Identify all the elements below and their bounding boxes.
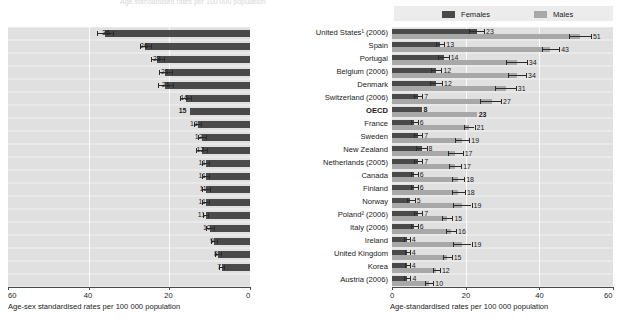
left-axis-tick-label: 60	[8, 291, 16, 300]
error-bar-cap	[446, 229, 447, 234]
bar-females	[392, 68, 436, 73]
error-bar-cap	[453, 203, 454, 208]
left-axis-tick	[8, 287, 9, 290]
value-label-total: 21	[157, 68, 169, 75]
error-bar-cap	[441, 68, 442, 73]
error-bar-line	[436, 44, 444, 45]
error-bar-cap	[191, 96, 192, 101]
value-label-males: 43	[561, 46, 569, 53]
error-bar-cap	[224, 265, 225, 270]
right-axis-tick	[613, 287, 614, 290]
error-bar-cap	[414, 211, 415, 216]
error-bar-cap	[422, 211, 423, 216]
error-bar-cap	[209, 200, 210, 205]
value-label-females: 4	[412, 262, 416, 269]
legend-swatch-males-icon	[534, 11, 547, 18]
gridline	[169, 27, 170, 287]
gridline	[89, 27, 90, 287]
error-bar-cap	[526, 73, 527, 78]
error-bar-cap	[407, 198, 408, 203]
error-bar-cap	[433, 268, 434, 273]
bar-total	[202, 147, 250, 154]
bar-males	[392, 47, 550, 52]
error-bar-cap	[455, 138, 456, 143]
error-bar-cap	[201, 122, 202, 127]
value-label-males: 19	[474, 241, 482, 248]
error-bar-cap	[414, 94, 415, 99]
error-bar-cap	[173, 83, 174, 88]
right-axis-tick	[466, 287, 467, 290]
country-label: Netherlands (2005)	[252, 158, 388, 167]
bar-males	[392, 34, 580, 39]
error-bar-line	[425, 283, 433, 284]
bar-males	[392, 60, 517, 65]
right-axis-title: Age-standardised rates per 100 000 popul…	[390, 302, 548, 312]
error-bar-cap	[461, 164, 462, 169]
error-bar-cap	[208, 213, 209, 218]
error-bar-line	[464, 127, 474, 128]
bar-total	[206, 212, 250, 219]
left-axis-tick-label: 40	[84, 291, 92, 300]
bar-males	[392, 177, 458, 182]
error-bar-cap	[442, 81, 443, 86]
error-bar-cap	[456, 229, 457, 234]
error-bar-cap	[422, 133, 423, 138]
error-bar-cap	[464, 177, 465, 182]
error-bar-cap	[431, 68, 432, 73]
bar-total	[214, 238, 250, 245]
error-bar-cap	[207, 148, 208, 153]
value-label-females: 6	[420, 184, 424, 191]
error-bar-line	[452, 179, 464, 180]
value-label-total: 8	[206, 250, 218, 257]
value-label-males: 51	[593, 33, 601, 40]
bar-males	[392, 86, 506, 91]
legend-label-males: Males	[553, 10, 573, 19]
bar-males	[392, 190, 458, 195]
row-band	[8, 275, 250, 286]
country-label: Norway	[252, 197, 388, 206]
error-bar-line	[480, 101, 501, 102]
left-axis-title: Age-sex standardised rates per 100 000 p…	[8, 302, 180, 312]
error-bar-cap	[411, 172, 412, 177]
error-bar-cap	[164, 57, 165, 62]
value-label-males: 18	[466, 176, 474, 183]
error-bar-cap	[209, 174, 210, 179]
left-axis-tick	[250, 287, 251, 290]
country-label: Italy (2006)	[252, 223, 388, 232]
error-bar-cap	[495, 86, 496, 91]
gridline	[466, 27, 467, 287]
error-bar-line	[455, 140, 470, 141]
value-label-males: 31	[518, 85, 526, 92]
country-label: Korea	[252, 262, 388, 271]
error-bar-cap	[411, 224, 412, 229]
value-label-total: 21	[158, 81, 170, 88]
value-label-total: 12	[191, 133, 203, 140]
error-bar-cap	[418, 185, 419, 190]
error-bar-line	[542, 49, 560, 50]
error-bar-cap	[209, 161, 210, 166]
error-bar-cap	[404, 237, 405, 242]
error-bar-cap	[469, 138, 470, 143]
error-bar-cap	[217, 239, 218, 244]
right-axis-tick-label: 60	[604, 291, 612, 300]
bar-males	[392, 151, 455, 156]
bar-males	[392, 268, 436, 273]
error-bar-cap	[469, 29, 470, 34]
value-label-females: 12	[444, 80, 452, 87]
bar-total	[222, 264, 250, 271]
error-bar-cap	[410, 250, 411, 255]
chart-figure: Age standardised rates per 100 000 popul…	[0, 0, 619, 323]
left-axis-tick-label: 20	[164, 291, 172, 300]
error-bar-cap	[405, 250, 406, 255]
bar-total	[206, 160, 250, 167]
right-axis-tick-label: 20	[462, 291, 470, 300]
error-bar-line	[414, 96, 422, 97]
error-bar-cap	[448, 151, 449, 156]
gridline	[539, 27, 540, 287]
country-label: Canada	[252, 171, 388, 180]
error-bar-cap	[214, 226, 215, 231]
error-bar-cap	[527, 60, 528, 65]
error-bar-cap	[113, 31, 114, 36]
error-bar-cap	[501, 99, 502, 104]
error-bar-cap	[452, 190, 453, 195]
